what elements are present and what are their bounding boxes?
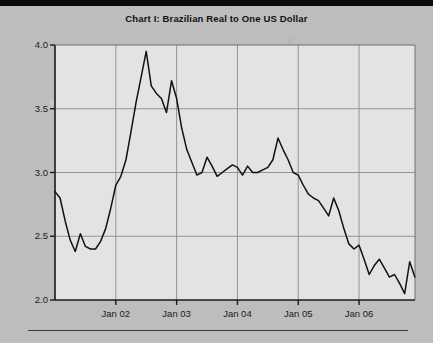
- x-axis-tick-label: Jan 05: [268, 308, 328, 319]
- x-axis-tick-label: Jan 04: [207, 308, 267, 319]
- y-axis-tick-label: 3.0: [12, 167, 48, 178]
- y-axis-tick-label: 4.0: [12, 39, 48, 50]
- document-page: Chart I: Brazilian Real to One US Dollar…: [0, 0, 433, 343]
- chart-plot-container: 4.03.53.02.52.0 Jan 02Jan 03Jan 04Jan 05…: [0, 0, 433, 343]
- x-axis-tick-label: Jan 02: [86, 308, 146, 319]
- x-axis-tick-label: Jan 03: [147, 308, 207, 319]
- x-axis-tick-label: Jan 06: [329, 308, 389, 319]
- y-axis-tick-label: 2.5: [12, 230, 48, 241]
- line-chart-svg: [0, 0, 433, 343]
- y-axis-tick-label: 3.5: [12, 103, 48, 114]
- page-footer-rule: [28, 330, 408, 331]
- y-axis-tick-label: 2.0: [12, 294, 48, 305]
